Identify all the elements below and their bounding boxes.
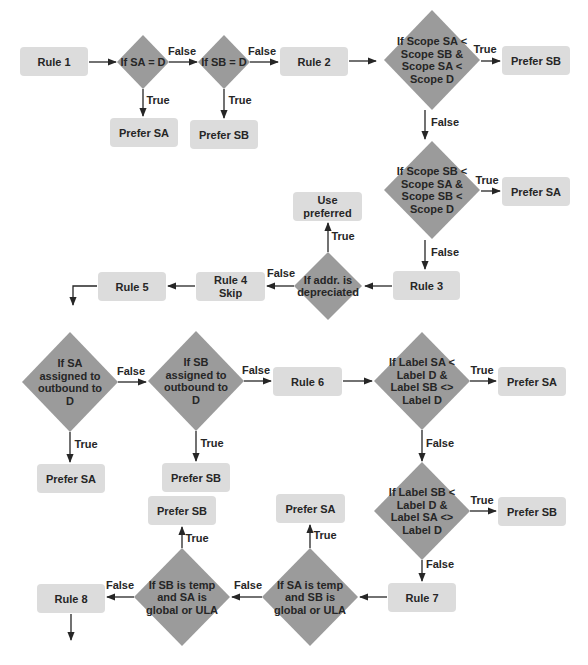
node-label: Rule 6 bbox=[291, 376, 324, 388]
node-label: Rule 4 bbox=[214, 274, 248, 286]
node-label: D bbox=[66, 395, 74, 407]
node-label: Label D bbox=[402, 524, 442, 536]
flowchart-canvas: Rule 1If SA = DIf SB = DRule 2If Scope S… bbox=[0, 0, 588, 665]
process-box-rule4: Rule 4Skip bbox=[196, 272, 265, 301]
edge-label-true: True bbox=[475, 174, 498, 186]
process-box-prefer-sb-r1: Prefer SB bbox=[190, 120, 258, 149]
node-label: assigned to bbox=[39, 370, 100, 382]
node-label: Scope SB < bbox=[402, 190, 463, 202]
process-box-prefer-sa-3: Prefer SA bbox=[498, 367, 566, 396]
process-box-rule1: Rule 1 bbox=[20, 47, 88, 76]
node-label: global or ULA bbox=[146, 604, 218, 616]
node-label: If addr. is bbox=[304, 274, 352, 286]
process-box-rule3: Rule 3 bbox=[393, 271, 460, 300]
node-label: Rule 5 bbox=[115, 281, 148, 293]
node-label: Prefer SB bbox=[157, 505, 207, 517]
process-box-use-preferred: Usepreferred bbox=[293, 192, 362, 221]
node-label: If Scope SA < bbox=[397, 35, 467, 47]
node-label: Label SB <> bbox=[391, 381, 454, 393]
edge-label-false: False bbox=[426, 558, 454, 570]
process-box-rule2: Rule 2 bbox=[280, 47, 348, 76]
node-label: If SA bbox=[57, 357, 82, 369]
node-label: Rule 8 bbox=[54, 593, 87, 605]
edge-label-false: False bbox=[117, 365, 145, 377]
node-label: depreciated bbox=[297, 286, 359, 298]
node-label: Label SA <> bbox=[391, 511, 454, 523]
decision-diamond-d-label-sa: If Label SA <Label D &Label SB <>Label D bbox=[374, 332, 470, 430]
edge-label-true: True bbox=[228, 94, 251, 106]
node-label: Scope D bbox=[410, 203, 454, 215]
node-label: If SA is temp bbox=[277, 579, 343, 591]
node-label: preferred bbox=[303, 207, 351, 219]
node-label: global or ULA bbox=[274, 604, 346, 616]
node-label: Label D bbox=[402, 394, 442, 406]
node-label: and SA is bbox=[157, 591, 207, 603]
edge-label-true: True bbox=[470, 364, 493, 376]
decision-diamond-d-sb-outbound: If SBassigned tooutbound toD bbox=[148, 331, 244, 431]
connector-arrow-rule5-to-next bbox=[73, 286, 97, 305]
process-box-prefer-sa-r3: Prefer SA bbox=[37, 464, 105, 493]
node-label: Prefer SB bbox=[507, 506, 557, 518]
edge-label-false: False bbox=[267, 267, 295, 279]
edge-label-false: False bbox=[248, 45, 276, 57]
edge-label-true: True bbox=[146, 94, 169, 106]
edge-label-true: True bbox=[470, 494, 493, 506]
edge-label-false: False bbox=[168, 45, 196, 57]
edge-label-true: True bbox=[74, 438, 97, 450]
decision-diamond-d-sa-temp: If SA is tempand SB isglobal or ULA bbox=[262, 548, 358, 646]
process-box-prefer-sb-1: Prefer SB bbox=[502, 46, 570, 75]
node-label: D bbox=[192, 394, 200, 406]
node-label: Scope SB & bbox=[401, 48, 463, 60]
node-label: Skip bbox=[219, 287, 243, 299]
node-label: Prefer SA bbox=[119, 127, 169, 139]
decision-diamond-d-sb-eq-d: If SB = D bbox=[198, 35, 250, 89]
edge-label-false: False bbox=[242, 364, 270, 376]
node-label: Prefer SA bbox=[511, 186, 561, 198]
process-box-prefer-sa-r1: Prefer SA bbox=[110, 118, 178, 147]
decision-diamond-d-scope-sb: If Scope SB <Scope SA &Scope SB <Scope D bbox=[384, 141, 480, 239]
node-label: If Label SA < bbox=[389, 356, 455, 368]
node-label: Rule 2 bbox=[297, 56, 330, 68]
edge-label-true: True bbox=[473, 43, 496, 55]
node-label: Scope SA < bbox=[402, 60, 462, 72]
process-box-rule7: Rule 7 bbox=[388, 583, 456, 612]
edge-label-false: False bbox=[234, 579, 262, 591]
node-label: Rule 7 bbox=[405, 592, 438, 604]
node-label: If Scope SB < bbox=[397, 165, 468, 177]
node-label: Rule 3 bbox=[410, 280, 443, 292]
node-label: Prefer SB bbox=[171, 472, 221, 484]
process-box-rule6: Rule 6 bbox=[273, 367, 342, 396]
node-label: Use bbox=[317, 194, 337, 206]
edge-label-false: False bbox=[431, 246, 459, 258]
node-label: Prefer SB bbox=[511, 55, 561, 67]
edge-label-false: False bbox=[106, 579, 134, 591]
process-box-prefer-sb-5: Prefer SB bbox=[148, 496, 216, 525]
decision-diamond-d-scope-sa: If Scope SA <Scope SB &Scope SA <Scope D bbox=[384, 10, 480, 110]
process-box-prefer-sb-r3: Prefer SB bbox=[162, 463, 230, 492]
node-label: Rule 1 bbox=[37, 56, 70, 68]
edge-label-true: True bbox=[331, 230, 354, 242]
decision-diamond-d-depreciated: If addr. isdepreciated bbox=[294, 252, 362, 320]
node-label: Scope D bbox=[410, 73, 454, 85]
decision-diamond-d-sb-temp: If SB is tempand SA isglobal or ULA bbox=[134, 548, 230, 646]
edge-label-false: False bbox=[431, 116, 459, 128]
node-label: Prefer SA bbox=[285, 503, 335, 515]
edge-label-true: True bbox=[313, 529, 336, 541]
node-label: outbound to bbox=[38, 382, 102, 394]
node-label: Prefer SA bbox=[507, 376, 557, 388]
node-label: Label D & bbox=[397, 499, 448, 511]
node-label: If SB = D bbox=[201, 56, 247, 68]
node-label: Scope SA & bbox=[401, 178, 463, 190]
node-label: and SB is bbox=[285, 591, 335, 603]
nodes-layer: Rule 1If SA = DIf SB = DRule 2If Scope S… bbox=[20, 10, 570, 646]
node-label: If SB is temp bbox=[149, 579, 216, 591]
process-box-rule5: Rule 5 bbox=[98, 272, 166, 301]
node-label: If SA = D bbox=[120, 56, 165, 68]
node-label: If SB bbox=[183, 356, 208, 368]
edge-label-true: True bbox=[200, 437, 223, 449]
process-box-prefer-sa-4: Prefer SA bbox=[276, 494, 345, 523]
node-label: Prefer SA bbox=[46, 473, 96, 485]
edge-label-false: False bbox=[426, 437, 454, 449]
node-label: If Label SB < bbox=[389, 486, 455, 498]
decision-diamond-d-label-sb: If Label SB <Label D &Label SA <>Label D bbox=[374, 462, 470, 560]
